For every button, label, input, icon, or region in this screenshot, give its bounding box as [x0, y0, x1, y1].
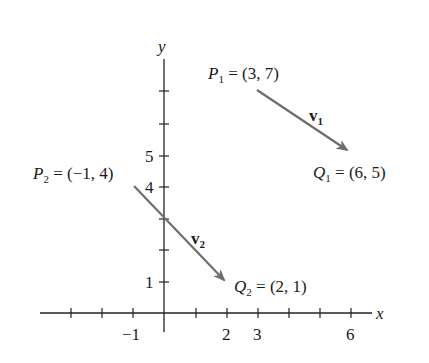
- y-tick-label-5: 5: [145, 147, 154, 166]
- vector-v1: v1 P1 = (3, 7) Q1 = (6, 5): [207, 64, 386, 184]
- y-axis-label: y: [156, 37, 166, 56]
- vector-v2: v2 P2 = (−1, 4) Q2 = (2, 1): [32, 164, 307, 298]
- point-p2-label: P2 = (−1, 4): [32, 164, 113, 185]
- point-q1-label: Q1 = (6, 5): [313, 163, 386, 184]
- y-tick-label-1: 1: [145, 273, 154, 292]
- x-axis: x −1 2 3 6: [40, 304, 384, 344]
- vector-v1-label: v1: [309, 106, 323, 127]
- vector-v2-arrow: [134, 186, 224, 280]
- vector-v2-label: v2: [191, 229, 206, 250]
- y-tick-label-4: 4: [145, 178, 154, 197]
- x-tick-label-6: 6: [346, 325, 355, 344]
- vector-v1-arrow: [257, 90, 347, 150]
- x-axis-label: x: [375, 304, 384, 323]
- point-q2-label: Q2 = (2, 1): [234, 277, 307, 298]
- point-p1-label: P1 = (3, 7): [207, 64, 279, 85]
- x-tick-label-neg1: −1: [122, 325, 140, 344]
- x-tick-label-3: 3: [253, 325, 262, 344]
- y-axis: y 1 4 5: [145, 37, 169, 332]
- vector-diagram: x −1 2 3 6 y 1 4 5 v1 P1 = (3, 7) Q1 = (…: [0, 0, 429, 363]
- x-tick-label-2: 2: [222, 325, 231, 344]
